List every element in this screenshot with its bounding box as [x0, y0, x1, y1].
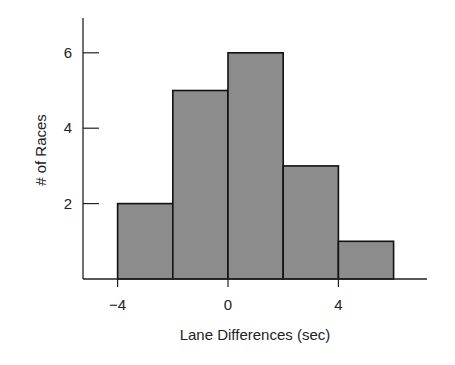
y-axis-title: # of Races	[32, 114, 49, 186]
histogram-bar	[283, 166, 338, 279]
histogram-chart: 246 −404 Lane Differences (sec) # of Rac…	[0, 0, 455, 365]
x-tick-label: 4	[334, 296, 342, 313]
y-tick-label: 4	[64, 119, 72, 136]
x-axis-title: Lane Differences (sec)	[180, 326, 331, 343]
histogram-bar	[228, 53, 283, 279]
bars	[118, 53, 394, 279]
histogram-bar	[338, 241, 393, 279]
y-tick-label: 2	[64, 195, 72, 212]
y-ticks: 246	[64, 44, 99, 212]
x-tick-label: 0	[224, 296, 232, 313]
x-ticks: −404	[109, 279, 343, 313]
histogram-bar	[173, 91, 228, 280]
y-tick-label: 6	[64, 44, 72, 61]
x-tick-label: −4	[109, 296, 126, 313]
histogram-bar	[118, 204, 173, 279]
